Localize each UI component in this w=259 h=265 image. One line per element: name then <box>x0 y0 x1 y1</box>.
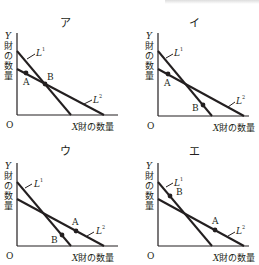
point-a <box>213 228 218 233</box>
y-axis-label: Y 財 の 数 量 <box>3 31 13 81</box>
y-axis-label: Y 財 の 数 量 <box>3 161 13 211</box>
label-l1: L1 <box>34 177 43 189</box>
x-axis-label: X財の数量 <box>213 121 255 134</box>
point-b <box>201 103 206 108</box>
line-l2 <box>158 69 244 116</box>
y-axis-label: Y 財 の 数 量 <box>144 31 154 81</box>
leader-l1 <box>166 54 173 58</box>
label-b: B <box>192 103 199 113</box>
origin-label: O <box>6 251 13 261</box>
label-a: A <box>212 216 219 226</box>
leader-l1 <box>166 183 173 187</box>
point-b <box>43 82 48 87</box>
x-axis-label: X財の数量 <box>72 251 114 264</box>
graph <box>0 10 130 135</box>
point-a <box>166 72 171 77</box>
leader-l2 <box>87 232 94 236</box>
point-a <box>24 71 29 76</box>
panel-a: ア Y 財 の 数 量 L1 L2 A B O X財の数量 <box>0 10 130 140</box>
label-l1: L1 <box>36 46 45 58</box>
panel-u: ウ Y 財 の 数 量 L1 L2 A B O X財の数量 <box>0 135 130 265</box>
point-a <box>74 229 79 234</box>
leader-l2 <box>84 100 92 104</box>
label-a: A <box>164 78 171 88</box>
origin-label: O <box>147 251 154 261</box>
label-l2: L2 <box>93 93 102 105</box>
leader-l1 <box>27 54 35 59</box>
cropped-text-residue <box>165 0 259 4</box>
point-b <box>60 233 65 238</box>
x-axis-label: X財の数量 <box>213 251 255 264</box>
y-axis-label: Y 財 の 数 量 <box>144 161 154 211</box>
label-b: B <box>176 187 183 197</box>
label-l2: L2 <box>236 224 245 236</box>
panel-e: エ Y 財 の 数 量 L1 L2 A B O X財の数量 <box>129 135 259 265</box>
line-l2 <box>17 69 104 115</box>
leader-l2 <box>228 102 235 107</box>
label-b: B <box>51 235 58 245</box>
origin-label: O <box>6 120 13 130</box>
label-l2: L2 <box>96 224 105 236</box>
label-b: B <box>47 72 54 82</box>
origin-label: O <box>147 121 154 131</box>
panel-i: イ Y 財 の 数 量 L1 L2 A B O X財の数量 <box>129 10 259 140</box>
label-l2: L2 <box>236 94 245 106</box>
leader-l2 <box>228 232 235 236</box>
graph <box>0 135 130 265</box>
label-l1: L1 <box>174 46 183 58</box>
label-a: A <box>23 77 30 87</box>
line-l2 <box>17 199 104 246</box>
label-a: A <box>72 217 79 227</box>
line-l2 <box>158 199 244 246</box>
x-axis-label: X財の数量 <box>72 120 114 133</box>
leader-l1 <box>25 184 32 188</box>
point-b <box>168 194 173 199</box>
